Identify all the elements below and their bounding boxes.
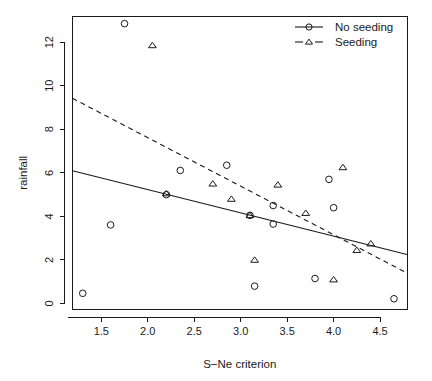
legend-label-seeding: Seeding: [335, 36, 377, 48]
data-point-triangle: [274, 182, 282, 187]
data-point-triangle: [209, 181, 217, 186]
data-point-triangle: [353, 247, 361, 252]
data-point-triangle: [305, 39, 312, 44]
legend-label-no-seeding: No seeding: [335, 21, 393, 33]
data-point-circle: [107, 222, 114, 229]
y-axis-tick-label: 12: [43, 36, 55, 48]
x-axis-tick-label: 3.0: [233, 325, 248, 337]
x-axis-tick-label: 2.0: [140, 325, 155, 337]
x-axis-title: S−Ne criterion: [203, 358, 276, 370]
data-point-triangle: [149, 42, 157, 47]
x-axis-tick-label: 1.5: [94, 325, 109, 337]
data-point-triangle: [227, 196, 235, 201]
data-point-triangle: [339, 164, 347, 169]
data-point-triangle: [302, 210, 310, 215]
data-point-circle: [251, 283, 258, 290]
regression-line-no-seeding: [73, 171, 408, 255]
y-axis-tick-label: 4: [43, 213, 55, 219]
y-axis-tick-label: 8: [43, 126, 55, 132]
data-point-circle: [330, 204, 337, 211]
x-axis-tick-label: 3.5: [279, 325, 294, 337]
scatter-plot-figure: 1.52.02.53.03.54.04.5S−Ne criterion02468…: [0, 0, 432, 381]
y-axis-tick-label: 2: [43, 257, 55, 263]
plot-frame: [73, 16, 408, 309]
data-point-triangle: [330, 276, 338, 281]
data-point-triangle: [251, 257, 259, 262]
y-axis-title: rainfall: [17, 156, 29, 190]
plot-canvas: 1.52.02.53.03.54.04.5S−Ne criterion02468…: [0, 0, 432, 381]
data-point-circle: [312, 275, 319, 282]
x-axis-tick-label: 4.5: [372, 325, 387, 337]
x-axis-tick-label: 2.5: [187, 325, 202, 337]
y-axis-tick-label: 6: [43, 170, 55, 176]
data-point-circle: [79, 290, 86, 297]
data-point-circle: [326, 176, 333, 183]
data-point-circle: [121, 20, 128, 27]
y-axis-tick-label: 0: [43, 300, 55, 306]
x-axis-tick-label: 4.0: [326, 325, 341, 337]
data-point-circle: [223, 162, 230, 169]
data-point-circle: [270, 221, 277, 228]
data-point-circle: [177, 167, 184, 174]
data-point-circle: [391, 295, 398, 302]
y-axis-tick-label: 10: [43, 80, 55, 92]
